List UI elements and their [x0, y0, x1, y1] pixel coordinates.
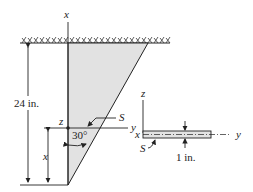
- origin-point: [66, 126, 70, 130]
- section-label: S: [119, 111, 125, 123]
- cs-z-label: z: [140, 87, 146, 99]
- cs-x-label: x: [134, 128, 140, 140]
- z-label: z: [58, 115, 64, 127]
- angle-label: 30°: [72, 129, 87, 141]
- x-distance-label: x: [42, 150, 48, 162]
- height-label: 24 in.: [14, 97, 39, 109]
- cs-y-label: y: [235, 128, 241, 140]
- x-axis-label: x: [63, 8, 69, 20]
- triangular-plate-diagram: x 24 in. z y S 30° x z x y 1 in. S: [0, 0, 253, 192]
- cross-section-view: z x y 1 in. S: [134, 87, 241, 163]
- ceiling-support: [20, 37, 170, 43]
- thickness-label: 1 in.: [176, 151, 196, 163]
- cs-section-label: S: [140, 142, 146, 154]
- triangular-plate: [68, 43, 148, 185]
